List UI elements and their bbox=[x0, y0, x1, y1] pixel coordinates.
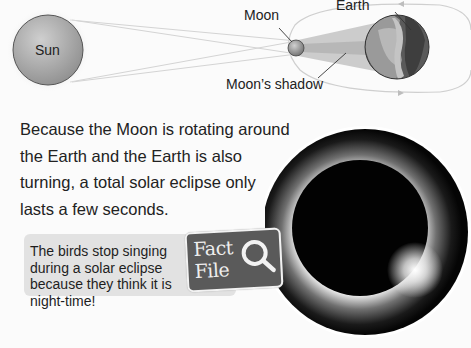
magnifier-icon bbox=[239, 236, 279, 278]
body-paragraph: Because the Moon is rotating around the … bbox=[20, 116, 290, 222]
sun-label: Sun bbox=[35, 42, 60, 58]
badge-fact-word: Fact bbox=[193, 237, 233, 259]
earth bbox=[365, 14, 429, 80]
light-rays bbox=[70, 20, 297, 82]
fact-file-badge: Fact File bbox=[184, 228, 283, 293]
solar-eclipse-photo bbox=[265, 118, 471, 348]
earth-label: Earth bbox=[336, 0, 369, 13]
moon-label: Moon bbox=[244, 7, 279, 23]
badge-file-word: File bbox=[194, 259, 230, 281]
fact-file-text: The birds stop singing during a solar ec… bbox=[30, 243, 180, 309]
diamond-ring-flare bbox=[387, 242, 443, 298]
moon-shadow-label: Moon’s shadow bbox=[226, 76, 323, 92]
moon bbox=[288, 40, 304, 56]
